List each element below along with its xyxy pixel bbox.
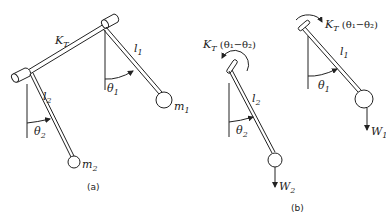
theta2-label-a: θ2 [34,125,46,140]
m2-label: m2 [82,158,98,173]
m1-label: m1 [174,100,190,115]
theta2-arc [27,119,50,123]
theta1-label-b: θ1 [318,79,330,94]
caption-a: (a) [87,182,100,192]
l2-label-a: l2 [43,90,52,105]
pendulum-2 [27,73,80,168]
l2-label-b: l2 [252,92,261,107]
w2-label: W2 [279,180,295,195]
mass-1 [156,92,172,108]
theta1-arc-b [308,69,337,76]
figure-a: KT l1 θ1 m1 l2 θ2 m2 (a) [10,14,189,192]
mass-2 [68,156,80,168]
caption-b: (b) [291,203,304,213]
l1-label-a: l1 [134,42,143,57]
pivot-1 [298,20,309,30]
w1-label: W1 [371,125,386,140]
torque-label-b-left: KT (θ₁−θ₂) [202,38,256,53]
theta2-label-b: θ2 [236,124,248,139]
l1-label-b: l1 [340,45,349,60]
theta1-label-a: θ1 [107,82,119,97]
torsion-bar [28,24,106,74]
pivot-2 [227,60,237,73]
mass-1-b [355,90,373,108]
mass-2-b [268,153,282,167]
double-pendulum-diagram: KT l1 θ1 m1 l2 θ2 m2 (a) KT (θ₁−θ₂) l2 θ… [0,0,386,223]
cylinder-right [100,14,118,29]
figure-b-left: KT (θ₁−θ₂) l2 θ2 W2 [202,38,295,195]
theta2-arc-b [229,117,253,122]
torque-label-b-right: KT (θ₁−θ₂) [324,18,378,33]
spring-label-a: KT [54,34,69,49]
cylinder-left [10,68,31,83]
theta1-arc [105,71,133,79]
figure-b-right: KT (θ₁−θ₂) l1 θ1 W1 [296,15,386,140]
